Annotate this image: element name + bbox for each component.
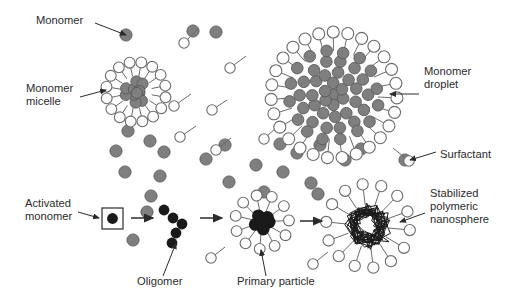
surfactant-head-icon: [156, 103, 167, 114]
monomer-bead: [141, 206, 153, 218]
monomer-bead: [307, 90, 319, 102]
surfactant-head-icon: [230, 210, 241, 221]
monomer-bead: [319, 70, 331, 82]
label-line: droplet: [424, 78, 459, 90]
emulsion-polymerization-diagram: MonomerMonomermicelleMonomerdropletSurfa…: [0, 0, 513, 298]
label-line: Primary particle: [237, 275, 315, 287]
monomer-bead: [364, 116, 376, 128]
surfactant-head-icon: [225, 63, 235, 73]
surfactant-head-icon: [363, 141, 375, 153]
monomer-bead: [298, 102, 310, 114]
surfactant-head-icon: [148, 111, 159, 122]
surfactant-head-icon: [404, 156, 414, 166]
monomer-bead: [329, 111, 341, 123]
surfactant-head-icon: [307, 148, 319, 160]
surfactant-tail: [378, 97, 391, 98]
surfactant-head-icon: [402, 206, 413, 217]
surfactant-head-icon: [113, 62, 124, 73]
monomer-bead: [223, 176, 235, 188]
label-line: nanosphere: [430, 213, 489, 225]
figure-canvas: MonomerMonomermicelleMonomerdropletSurfa…: [0, 0, 513, 298]
primary-particle-core-blob: [254, 214, 270, 230]
label-line: Surfactant: [440, 148, 492, 160]
label-line: Monomer: [424, 65, 472, 77]
activated-monomer-dot: [107, 213, 118, 224]
monomer-bead: [298, 76, 310, 88]
surfactant-head-icon: [160, 80, 171, 91]
monomer-bead: [332, 67, 344, 79]
monomer-bead: [334, 122, 346, 134]
label-surfactant: Surfactant: [440, 148, 492, 160]
surfactant-head-icon: [101, 93, 112, 104]
surfactant-head-icon: [321, 152, 333, 164]
surfactant-head-icon: [323, 235, 334, 246]
surfactant-head-icon: [389, 106, 401, 118]
label-primary-particle: Primary particle: [237, 275, 315, 287]
monomer-bead: [144, 135, 156, 147]
monomer-bead: [291, 62, 303, 74]
monomer-bead: [371, 83, 383, 95]
monomer-bead: [210, 26, 222, 38]
surfactant-head-icon: [125, 116, 136, 127]
surfactant-head-icon: [385, 256, 396, 267]
surfactant-head-icon: [294, 142, 306, 154]
surfactant-head-icon: [376, 181, 387, 192]
label-monomer: Monomer: [36, 14, 84, 26]
oligomer-bead: [159, 205, 170, 216]
surfactant-head-icon: [374, 132, 386, 144]
surfactant-head-icon: [147, 61, 158, 72]
surfactant-head-icon: [383, 120, 395, 132]
surfactant-head-icon: [390, 77, 402, 89]
surfactant-head-icon: [392, 190, 403, 201]
surfactant-head-icon: [326, 199, 337, 210]
monomer-bead: [187, 25, 199, 37]
surfactant-head-icon: [254, 244, 265, 255]
surfactant-head-icon: [270, 65, 282, 77]
surfactant-head-icon: [280, 230, 291, 241]
surfactant-head-icon: [240, 238, 251, 249]
surfactant-head-icon: [283, 133, 295, 145]
surfactant-head-icon: [105, 70, 116, 81]
surfactant-head-icon: [357, 179, 368, 190]
surfactant-head-icon: [321, 216, 332, 227]
surfactant-head-icon: [268, 108, 280, 120]
surfactant-head-icon: [136, 57, 147, 68]
oligomer-bead: [171, 228, 182, 239]
monomer-bead: [317, 133, 329, 145]
label-line: Activated: [25, 197, 71, 209]
surfactant-head-icon: [336, 151, 348, 163]
label-line: micelle: [26, 95, 61, 107]
surfactant-head-icon: [259, 134, 269, 144]
label-line: Monomer: [36, 14, 84, 26]
label-activated-monomer: Activatedmonomer: [25, 197, 73, 222]
monomer-bead: [200, 153, 212, 165]
monomer-bead: [304, 51, 316, 63]
monomer-bead: [119, 166, 131, 178]
surfactant-head-icon: [179, 38, 189, 48]
monomer-bead: [352, 125, 364, 137]
monomer-bead: [321, 45, 333, 57]
surfactant-head-icon: [342, 28, 354, 40]
surfactant-head-icon: [207, 105, 217, 115]
monomer-bead: [358, 104, 370, 116]
surfactant-head-icon: [175, 132, 185, 142]
surfactant-head-icon: [277, 52, 289, 64]
label-line: Monomer: [26, 82, 74, 94]
surfactant-head-icon: [278, 201, 289, 212]
monomer-bead: [337, 47, 349, 59]
surfactant-head-icon: [350, 148, 362, 160]
monomer-bead: [301, 126, 313, 138]
surfactant-head-icon: [368, 40, 380, 52]
surfactant-head-icon: [211, 145, 221, 155]
monomer-bead: [334, 133, 346, 145]
surfactant-head-icon: [287, 41, 299, 53]
surfactant-head-icon: [265, 93, 277, 105]
surfactant-head-icon: [356, 32, 368, 44]
surfactant-head-icon: [368, 262, 379, 273]
oligomer-bead: [177, 219, 188, 230]
monomer-bead: [365, 65, 377, 77]
activated-monomer-glyph: [102, 208, 123, 229]
surfactant-head-icon: [378, 51, 390, 63]
surfactant-head-icon: [404, 224, 415, 235]
monomer-bead: [321, 56, 333, 68]
